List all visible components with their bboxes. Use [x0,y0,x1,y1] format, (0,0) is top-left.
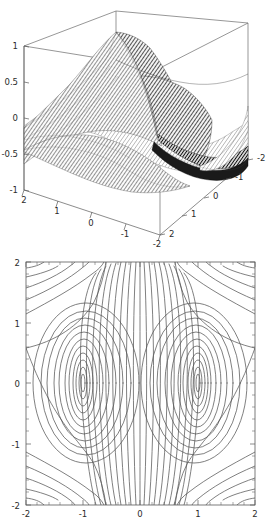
surface-xtick-2: 0 [88,218,93,228]
contour-lines [26,262,255,505]
contour-xtick-3: 1 [195,509,200,519]
surface-ytick-2: 0 [213,191,218,201]
surface-ztick-3: -0.5 [1,149,18,159]
contour-plot-svg: -2 -1 0 1 2 2 1 0 -1 -2 [0,248,270,525]
surface-xtick-1: 1 [54,206,59,216]
surface-ytick-0: -2 [257,153,265,163]
surface-ytick-3: 1 [191,209,196,219]
contour-ytick-4: -2 [12,501,20,511]
contour-xtick-1: -1 [79,509,87,519]
contour-ytick-2: 0 [15,379,20,389]
surface-xtick-4: -2 [153,239,161,248]
math-figure: 1 0.5 0 -0.5 -1 2 1 0 -1 -2 [0,0,270,525]
contour-xtick-4: 2 [252,509,257,519]
contour-plot-panel: -2 -1 0 1 2 2 1 0 -1 -2 [0,248,270,525]
surface-ztick-1: 0.5 [4,77,18,87]
surface-plot-svg: 1 0.5 0 -0.5 -1 2 1 0 -1 -2 [0,0,270,248]
surface-ztick-2: 0 [13,113,18,123]
contour-xtick-2: 0 [137,509,142,519]
surface-mesh [24,32,248,193]
contour-y-axis: 2 1 0 -1 -2 [12,258,20,511]
surface-ztick-4: -1 [10,185,18,195]
contour-ytick-0: 2 [15,258,20,268]
contour-xtick-0: -2 [22,509,30,519]
surface-x-axis: 2 1 0 -1 -2 [21,190,161,248]
surface-plot-panel: 1 0.5 0 -0.5 -1 2 1 0 -1 -2 [0,0,270,248]
surface-ztick-0: 1 [13,41,18,51]
surface-ytick-1: -1 [235,172,243,182]
surface-xtick-3: -1 [121,229,129,239]
surface-xtick-0: 2 [21,195,26,205]
surface-z-axis: 1 0.5 0 -0.5 -1 [1,41,29,195]
contour-x-axis: -2 -1 0 1 2 [22,509,258,519]
surface-ytick-4: 2 [169,229,174,239]
contour-ytick-1: 1 [15,319,20,329]
contour-ytick-3: -1 [12,440,20,450]
